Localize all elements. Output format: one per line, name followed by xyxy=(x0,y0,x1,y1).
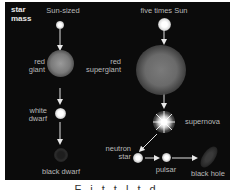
heading-sun-sized: Sun-sized xyxy=(43,7,83,15)
label-black-hole: black hole xyxy=(187,170,229,178)
label-red-giant-line2: giant xyxy=(19,66,45,74)
title-line-2: mass xyxy=(11,14,31,23)
neutron-star xyxy=(133,153,143,163)
label-neutron-star: neutron star xyxy=(97,145,131,161)
label-white-dwarf-line2: dwarf xyxy=(15,115,47,123)
red-supergiant-star xyxy=(136,45,186,95)
label-red-giant: red giant xyxy=(19,58,45,74)
diagram-title: star mass xyxy=(11,5,31,23)
heading-five-times-sun: five times Sun xyxy=(135,7,193,15)
figure-caption: F i t t l t d xyxy=(0,183,233,190)
label-black-dwarf: black dwarf xyxy=(35,168,87,176)
pulsar-star xyxy=(162,153,171,162)
diagram-panel: star mass Sun-sized red giant white dwar… xyxy=(5,2,230,180)
label-red-supergiant: red supergiant xyxy=(83,58,121,74)
label-white-dwarf: white dwarf xyxy=(15,107,47,123)
label-red-supergiant-line2: supergiant xyxy=(83,66,121,74)
label-neutron-star-line2: star xyxy=(97,153,131,161)
black-dwarf-star xyxy=(54,148,68,162)
red-giant-star xyxy=(47,50,74,77)
five-times-sun-star xyxy=(158,18,171,31)
supernova-rays-icon xyxy=(151,109,177,135)
label-supernova: supernova xyxy=(185,118,220,126)
arrow-supernova-to-neutron-star xyxy=(141,134,157,150)
label-pulsar: pulsar xyxy=(149,166,183,174)
white-dwarf-star xyxy=(55,108,66,119)
title-line-1: star xyxy=(11,5,31,14)
sun-sized-star xyxy=(56,21,64,29)
